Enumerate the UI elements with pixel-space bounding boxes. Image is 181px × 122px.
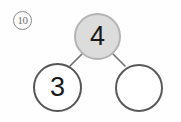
bond-node-total[interactable]: 4 [74, 13, 121, 60]
connector-total-to-right-part [113, 54, 125, 66]
bond-node-part-left-value: 3 [50, 74, 65, 101]
bond-node-total-value: 4 [90, 23, 105, 50]
bond-node-part-right-blank[interactable] [115, 64, 163, 112]
number-bond-problem: 10 4 3 [0, 0, 181, 122]
bond-node-part-left[interactable]: 3 [33, 63, 82, 112]
connector-total-to-left-part [70, 54, 82, 66]
